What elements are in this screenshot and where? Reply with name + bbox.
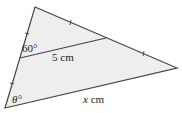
angle-top-label: 60°	[22, 42, 37, 54]
midsegment-label: 5 cm	[52, 51, 74, 63]
base-label: x cm	[82, 93, 105, 105]
triangle-diagram: 60° 5 cm θ° x cm	[0, 0, 182, 113]
angle-bottom-label: θ°	[12, 93, 22, 105]
